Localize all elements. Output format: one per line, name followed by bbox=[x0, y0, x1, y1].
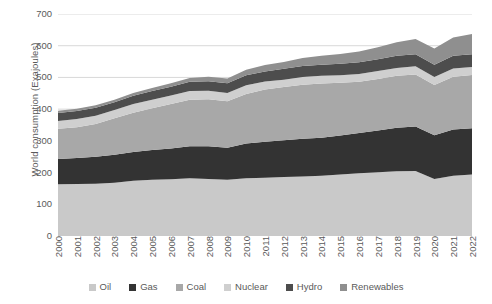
x-tick-label-2009: 2009 bbox=[223, 236, 233, 276]
x-tick-label-2003: 2003 bbox=[110, 236, 120, 276]
x-tick-label-2011: 2011 bbox=[261, 236, 271, 276]
legend-item-oil[interactable]: Oil bbox=[89, 282, 112, 292]
legend-item-coal[interactable]: Coal bbox=[176, 282, 207, 292]
x-tick-label-2013: 2013 bbox=[299, 236, 309, 276]
x-tick-label-2018: 2018 bbox=[393, 236, 403, 276]
x-tick-label-2005: 2005 bbox=[148, 236, 158, 276]
x-tick-label-2012: 2012 bbox=[280, 236, 290, 276]
x-tick-label-2022: 2022 bbox=[468, 236, 478, 276]
x-tick-label-2010: 2010 bbox=[242, 236, 252, 276]
legend-label: Oil bbox=[100, 282, 112, 292]
y-tick-label-600: 600 bbox=[18, 41, 52, 51]
legend-label: Hydro bbox=[297, 282, 322, 292]
y-tick-label-200: 200 bbox=[18, 168, 52, 178]
y-tick-label-300: 300 bbox=[18, 136, 52, 146]
y-tick-label-400: 400 bbox=[18, 104, 52, 114]
x-tick-label-2021: 2021 bbox=[449, 236, 459, 276]
legend-item-hydro[interactable]: Hydro bbox=[286, 282, 322, 292]
x-tick-label-2016: 2016 bbox=[355, 236, 365, 276]
legend-label: Gas bbox=[140, 282, 157, 292]
plot-svg bbox=[58, 14, 472, 236]
x-tick-label-2015: 2015 bbox=[336, 236, 346, 276]
legend-swatch-icon bbox=[89, 284, 96, 291]
x-tick-label-2006: 2006 bbox=[167, 236, 177, 276]
legend-swatch-icon bbox=[224, 284, 231, 291]
y-tick-label-700: 700 bbox=[18, 9, 52, 19]
x-tick-label-2008: 2008 bbox=[205, 236, 215, 276]
legend-label: Coal bbox=[187, 282, 207, 292]
y-tick-label-100: 100 bbox=[18, 199, 52, 209]
legend-item-gas[interactable]: Gas bbox=[129, 282, 157, 292]
x-tick-label-2020: 2020 bbox=[430, 236, 440, 276]
legend-label: Nuclear bbox=[235, 282, 268, 292]
y-tick-label-500: 500 bbox=[18, 72, 52, 82]
legend-label: Renewables bbox=[351, 282, 403, 292]
x-tick-label-2017: 2017 bbox=[374, 236, 384, 276]
legend-swatch-icon bbox=[129, 284, 136, 291]
legend-swatch-icon bbox=[176, 284, 183, 291]
stacked-area-chart: World consumption (Exajoules) 7006005004… bbox=[0, 0, 492, 304]
y-axis-tick-labels: 7006005004003002001000 bbox=[12, 0, 52, 304]
legend-swatch-icon bbox=[286, 284, 293, 291]
legend-item-nuclear[interactable]: Nuclear bbox=[224, 282, 268, 292]
x-tick-label-2019: 2019 bbox=[412, 236, 422, 276]
x-axis-tick-labels: 2000200120022003200420052006200720082009… bbox=[58, 236, 472, 276]
x-tick-label-2000: 2000 bbox=[54, 236, 64, 276]
legend-item-renewables[interactable]: Renewables bbox=[340, 282, 403, 292]
x-tick-label-2014: 2014 bbox=[317, 236, 327, 276]
x-tick-label-2007: 2007 bbox=[186, 236, 196, 276]
y-tick-label-0: 0 bbox=[18, 231, 52, 241]
x-tick-label-2004: 2004 bbox=[129, 236, 139, 276]
plot-area bbox=[58, 14, 472, 236]
legend-swatch-icon bbox=[340, 284, 347, 291]
x-tick-label-2002: 2002 bbox=[92, 236, 102, 276]
chart-legend: OilGasCoalNuclearHydroRenewables bbox=[0, 279, 492, 295]
x-tick-label-2001: 2001 bbox=[73, 236, 83, 276]
